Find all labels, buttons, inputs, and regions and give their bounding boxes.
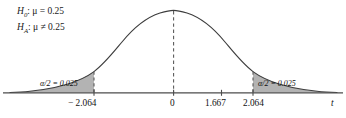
- null-hypothesis-symbol: H: [17, 6, 24, 16]
- left-alpha-label: α/2 = 0.025: [40, 79, 78, 88]
- hypothesis-statements: H0: μ = 0.25 HA: μ ≠ 0.25: [17, 5, 65, 38]
- tick-label-test-statistic: 1.667: [205, 98, 226, 108]
- alternative-hypothesis-statement: : μ ≠ 0.25: [28, 22, 65, 32]
- null-hypothesis-statement: : μ = 0.25: [27, 6, 64, 16]
- alternative-hypothesis-symbol: H: [17, 22, 24, 32]
- tick-label-zero: 0: [170, 98, 175, 108]
- tick-label-negative-critical: − 2.064: [68, 98, 97, 108]
- alternative-hypothesis-line: HA: μ ≠ 0.25: [17, 21, 65, 37]
- tick-label-positive-critical: 2.064: [243, 98, 264, 108]
- right-alpha-label: α/2 = 0.025: [258, 79, 296, 88]
- t-distribution-figure: H0: μ = 0.25 HA: μ ≠ 0.25 α/2 = 0.025 α/…: [0, 0, 346, 118]
- x-axis-label: t: [331, 98, 334, 108]
- null-hypothesis-line: H0: μ = 0.25: [17, 5, 65, 21]
